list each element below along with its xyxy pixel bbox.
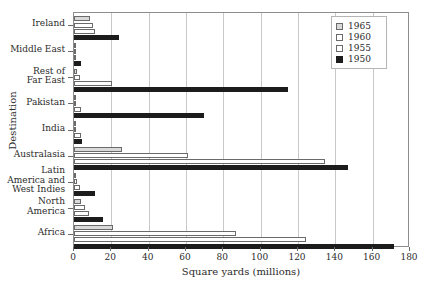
y-tick [68,130,73,131]
legend-swatch-icon [336,56,343,63]
bar [74,75,80,80]
y-tick [68,156,73,157]
bar [74,49,76,54]
x-axis-title: Square yards (millions) [73,266,409,277]
y-tick-label: Rest of Far East [0,67,65,86]
y-tick-label: India [0,124,65,134]
bar [74,16,90,21]
y-tick [68,103,73,104]
bar-group [74,222,408,248]
bar [74,237,306,242]
x-tick [148,247,149,251]
legend-label: 1960 [348,32,371,42]
bar-group [74,170,408,196]
legend-item: 1960 [336,32,382,42]
legend-item: 1955 [336,43,382,53]
x-tick [260,247,261,251]
bar [74,199,81,204]
y-tick [68,208,73,209]
x-tick-label: 20 [90,252,130,262]
legend-item: 1965 [336,21,382,31]
x-tick [334,247,335,251]
x-tick-label: 140 [314,252,354,262]
chart-legend: 1965196019551950 [331,16,387,69]
y-tick-label: Latin America and West Indies [0,166,65,195]
legend-swatch-icon [336,45,343,52]
x-tick [372,247,373,251]
y-tick [68,25,73,26]
x-tick-label: 80 [202,252,242,262]
y-tick-label: Australasia [0,150,65,160]
legend-label: 1965 [348,21,371,31]
bar [74,231,236,236]
x-tick [297,247,298,251]
bar [74,69,77,74]
x-tick [185,247,186,251]
bar [74,81,112,86]
y-tick-label: Ireland [0,19,65,29]
bar [74,127,76,132]
bar-group [74,117,408,143]
x-tick [110,247,111,251]
y-tick-label: Pakistan [0,98,65,108]
bar [74,205,85,210]
bar-group [74,144,408,170]
bar [74,55,76,60]
bar [74,153,188,158]
bar [74,43,76,48]
bar [74,101,76,106]
y-tick-label: Africa [0,228,65,238]
bar [74,244,394,249]
x-tick [409,247,410,251]
bar-group [74,91,408,117]
bar-group [74,196,408,222]
bar [74,225,113,230]
bar [74,133,81,138]
bar [74,95,76,100]
legend-label: 1955 [348,43,371,53]
y-tick [68,77,73,78]
x-tick-label: 120 [277,252,317,262]
x-tick-label: 180 [389,252,426,262]
y-tick [68,51,73,52]
x-tick [222,247,223,251]
bar-group [74,65,408,91]
bar [74,185,80,190]
x-tick-label: 160 [352,252,392,262]
y-tick [68,182,73,183]
y-tick-label: Middle East [0,45,65,55]
y-tick [68,234,73,235]
y-tick-label: North America [0,197,65,216]
x-tick-label: 0 [53,252,93,262]
bar [74,121,76,126]
bar [74,23,93,28]
bar [74,29,95,34]
legend-swatch-icon [336,34,343,41]
legend-item: 1950 [336,54,382,64]
legend-swatch-icon [336,23,343,30]
bar [74,147,122,152]
bar [74,107,81,112]
bar-chart-figure: Square yards (millions) Destination 1965… [0,0,426,287]
bar [74,211,89,216]
legend-label: 1950 [348,54,371,64]
x-tick-label: 40 [128,252,168,262]
bar [74,159,325,164]
bar [74,173,76,178]
x-tick [73,247,74,251]
x-tick-label: 100 [240,252,280,262]
x-tick-label: 60 [165,252,205,262]
bar [74,179,77,184]
